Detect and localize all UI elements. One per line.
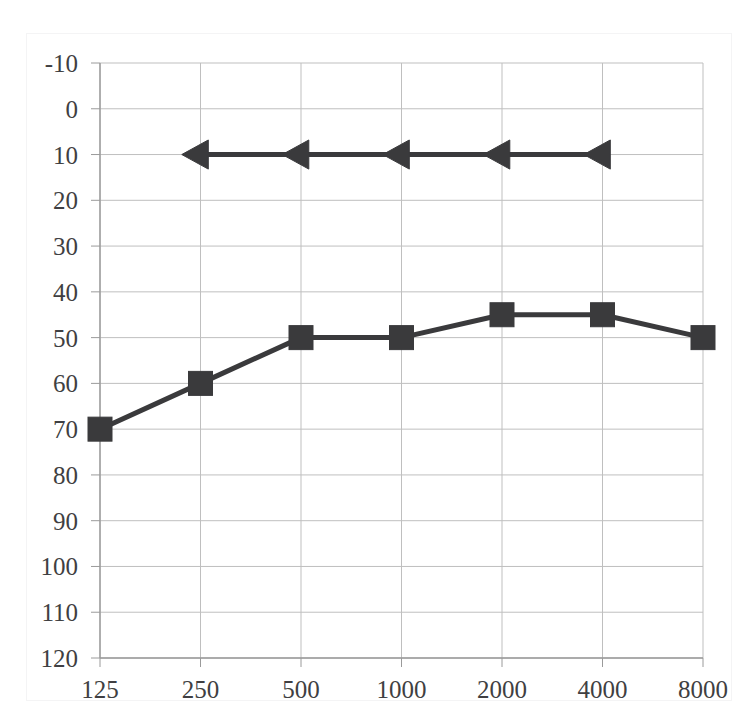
- y-tick-label: 120: [41, 645, 79, 672]
- x-tick-label: 250: [182, 676, 220, 703]
- data-point-square: [591, 303, 615, 327]
- data-point-left-arrow: [483, 140, 510, 169]
- y-tick-label: 80: [53, 462, 78, 489]
- y-tick-label: -10: [45, 50, 78, 77]
- x-axis-tick-labels: 1252505001000200040008000: [81, 676, 728, 703]
- data-point-square: [390, 326, 414, 350]
- y-tick-label: 20: [53, 187, 78, 214]
- data-point-left-arrow: [383, 140, 410, 169]
- y-tick-label: 60: [53, 370, 78, 397]
- data-point-square: [289, 326, 313, 350]
- y-tick-label: 50: [53, 325, 78, 352]
- x-tick-label: 500: [282, 676, 320, 703]
- y-tick-label: 70: [53, 416, 78, 443]
- data-point-left-arrow: [182, 140, 209, 169]
- data-point-square: [189, 371, 213, 395]
- x-tick-label: 125: [81, 676, 119, 703]
- y-axis-tick-labels: -100102030405060708090100110120: [41, 50, 79, 672]
- data-point-square: [490, 303, 514, 327]
- audiogram-chart: -100102030405060708090100110120 12525050…: [0, 0, 756, 727]
- y-tick-label: 110: [41, 599, 78, 626]
- y-tick-label: 30: [53, 233, 78, 260]
- y-tick-label: 90: [53, 508, 78, 535]
- x-tick-label: 2000: [477, 676, 527, 703]
- audiogram-figure: -100102030405060708090100110120 12525050…: [0, 0, 756, 727]
- x-tick-label: 1000: [377, 676, 427, 703]
- y-tick-label: 0: [66, 96, 79, 123]
- y-tick-label: 10: [53, 142, 78, 169]
- y-tick-label: 100: [41, 553, 79, 580]
- x-tick-label: 4000: [578, 676, 628, 703]
- data-point-left-arrow: [584, 140, 611, 169]
- data-point-square: [88, 417, 112, 441]
- data-point-square: [691, 326, 715, 350]
- series-no-response-series: [182, 140, 611, 169]
- data-point-left-arrow: [282, 140, 309, 169]
- y-tick-label: 40: [53, 279, 78, 306]
- x-tick-label: 8000: [678, 676, 728, 703]
